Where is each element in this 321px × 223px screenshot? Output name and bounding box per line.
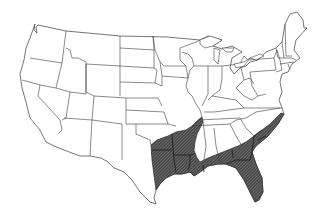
map-canvas <box>0 0 321 223</box>
us-map: Contiguous United States Southeastern co… <box>0 0 321 223</box>
